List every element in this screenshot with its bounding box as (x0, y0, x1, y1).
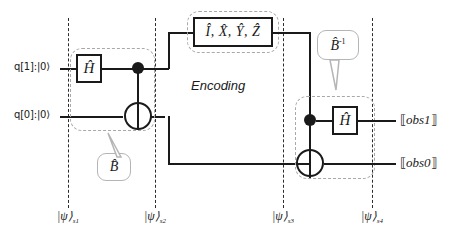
wire-q0-down-riser (168, 116, 170, 164)
state-label-s3: |ψ⟩s3 (272, 209, 294, 225)
section-divider-s1 (68, 18, 69, 208)
wire-decode-ctrl-to-h (316, 120, 332, 122)
qubit-label-q1: q[1]:|0⟩ (14, 61, 50, 72)
state-label-s2: |ψ⟩s2 (144, 209, 166, 225)
callout-b-inverse-label: B̂-1 (330, 37, 345, 54)
gate-h-measure[interactable]: Ĥ (332, 106, 358, 135)
observable-label-obs0: ⟦obs0⟧ (400, 155, 437, 171)
wire-encoding-out (273, 32, 311, 34)
section-divider-s2 (155, 18, 156, 208)
callout-b-forward-label: B̂ (110, 159, 119, 175)
wire-obs0-out (324, 163, 396, 165)
observable-label-obs1: ⟦obs1⟧ (400, 112, 437, 128)
callout-b-inverse: B̂-1 (317, 30, 359, 60)
wire-q1-riser (168, 32, 170, 69)
wire-obs1-out (358, 120, 396, 122)
quantum-circuit-figure: q[1]:|0⟩ q[0]:|0⟩ Ĥ B̂ Î, X̂, Ŷ, Ẑ Encod… (0, 0, 458, 236)
callout-b-forward-tail (95, 128, 141, 158)
group-box-encoding-ops (187, 11, 279, 53)
qubit-label-q0: q[0]:|0⟩ (14, 109, 50, 120)
cnot-target-decode (296, 149, 324, 177)
encoding-caption: Encoding (191, 78, 245, 93)
section-divider-s3 (283, 18, 284, 208)
state-label-s4: |ψ⟩s4 (361, 209, 383, 225)
group-box-b-forward (70, 48, 155, 131)
callout-b-inverse-tail (320, 59, 360, 91)
state-label-s1: |ψ⟩s1 (57, 209, 79, 225)
wire-q0-bottom-run (168, 163, 310, 165)
